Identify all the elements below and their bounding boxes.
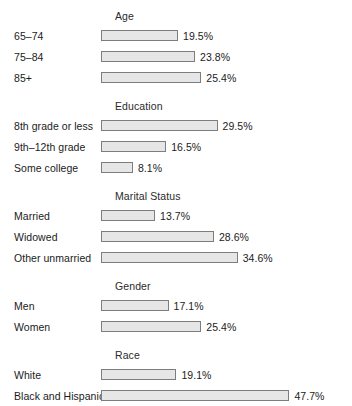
section-header: Education bbox=[115, 100, 352, 112]
bar-row: Black and Hispanic47.7% bbox=[0, 385, 352, 406]
chart-section-education: Education8th grade or less29.5%9th–12th … bbox=[0, 100, 352, 178]
bar bbox=[101, 51, 195, 62]
bar-value-label: 47.7% bbox=[294, 390, 324, 402]
bar-row: 85+25.4% bbox=[0, 67, 352, 88]
bar-track: 25.4% bbox=[101, 321, 352, 333]
bar bbox=[101, 231, 214, 242]
bar-category-label: Other unmarried bbox=[0, 252, 101, 264]
bar-category-label: Some college bbox=[0, 162, 101, 174]
bar bbox=[101, 30, 178, 41]
bar-category-label: Widowed bbox=[0, 231, 101, 243]
section-spacer bbox=[0, 337, 352, 349]
bar-track: 25.4% bbox=[101, 72, 352, 84]
bar bbox=[101, 390, 289, 401]
bar bbox=[101, 72, 201, 83]
bar-row: 75–8423.8% bbox=[0, 46, 352, 67]
bar-row: 9th–12th grade16.5% bbox=[0, 136, 352, 157]
bar bbox=[101, 162, 133, 173]
bar-row: Married13.7% bbox=[0, 205, 352, 226]
bar-category-label: 85+ bbox=[0, 72, 101, 84]
bar-track: 28.6% bbox=[101, 231, 352, 243]
bar bbox=[101, 321, 201, 332]
section-spacer bbox=[0, 178, 352, 190]
bar-category-label: 9th–12th grade bbox=[0, 141, 101, 153]
bar-track: 34.6% bbox=[101, 252, 352, 264]
bar-category-label: White bbox=[0, 369, 101, 381]
bar-value-label: 23.8% bbox=[200, 51, 230, 63]
bar-track: 19.5% bbox=[101, 30, 352, 42]
bar-category-label: 65–74 bbox=[0, 30, 101, 42]
bar bbox=[101, 369, 176, 380]
bar-value-label: 28.6% bbox=[219, 231, 249, 243]
section-header: Marital Status bbox=[115, 190, 352, 202]
bar-row: Other unmarried34.6% bbox=[0, 247, 352, 268]
bar-value-label: 25.4% bbox=[206, 72, 236, 84]
bar-category-label: Men bbox=[0, 300, 101, 312]
bar-row: Women25.4% bbox=[0, 316, 352, 337]
bar-value-label: 19.1% bbox=[181, 369, 211, 381]
bar bbox=[101, 141, 166, 152]
bar-value-label: 8.1% bbox=[138, 162, 162, 174]
bar-track: 23.8% bbox=[101, 51, 352, 63]
bar-value-label: 16.5% bbox=[171, 141, 201, 153]
chart-section-race: RaceWhite19.1%Black and Hispanic47.7% bbox=[0, 349, 352, 406]
bar-category-label: Black and Hispanic bbox=[0, 390, 101, 402]
bar-category-label: 75–84 bbox=[0, 51, 101, 63]
bar-category-label: Women bbox=[0, 321, 101, 333]
chart-section-marital-status: Marital StatusMarried13.7%Widowed28.6%Ot… bbox=[0, 190, 352, 268]
bar-value-label: 25.4% bbox=[206, 321, 236, 333]
bar-value-label: 34.6% bbox=[243, 252, 273, 264]
bar bbox=[101, 300, 169, 311]
section-spacer bbox=[0, 88, 352, 100]
bar-track: 13.7% bbox=[101, 210, 352, 222]
bar-value-label: 29.5% bbox=[223, 120, 253, 132]
bar-track: 8.1% bbox=[101, 162, 352, 174]
bar bbox=[101, 120, 218, 131]
section-header: Race bbox=[115, 349, 352, 361]
bar-row: White19.1% bbox=[0, 364, 352, 385]
bar-value-label: 13.7% bbox=[160, 210, 190, 222]
bar-value-label: 17.1% bbox=[174, 300, 204, 312]
bar bbox=[101, 210, 155, 221]
bar-category-label: Married bbox=[0, 210, 101, 222]
bar-track: 19.1% bbox=[101, 369, 352, 381]
bar-row: Men17.1% bbox=[0, 295, 352, 316]
section-header: Age bbox=[115, 10, 352, 22]
bar-row: 8th grade or less29.5% bbox=[0, 115, 352, 136]
bar-row: 65–7419.5% bbox=[0, 25, 352, 46]
bar-track: 47.7% bbox=[101, 390, 352, 402]
bar-track: 29.5% bbox=[101, 120, 352, 132]
bar-value-label: 19.5% bbox=[183, 30, 213, 42]
bar-track: 16.5% bbox=[101, 141, 352, 153]
chart-section-age: Age65–7419.5%75–8423.8%85+25.4% bbox=[0, 10, 352, 88]
section-spacer bbox=[0, 268, 352, 280]
section-header: Gender bbox=[115, 280, 352, 292]
bar bbox=[101, 252, 238, 263]
bar-track: 17.1% bbox=[101, 300, 352, 312]
bar-category-label: 8th grade or less bbox=[0, 120, 101, 132]
bar-row: Some college8.1% bbox=[0, 157, 352, 178]
chart-section-gender: GenderMen17.1%Women25.4% bbox=[0, 280, 352, 337]
bar-row: Widowed28.6% bbox=[0, 226, 352, 247]
